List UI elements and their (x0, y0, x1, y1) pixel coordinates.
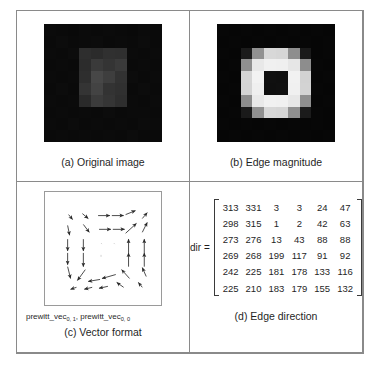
pixel-6-7 (300, 95, 312, 107)
vector-label-prefix-1: prewitt_vec (26, 312, 66, 321)
panel-b-caption: (b) Edge magnitude (230, 156, 322, 168)
matrix-cell-3-3: 117 (288, 248, 311, 264)
pixel-5-0 (217, 83, 229, 95)
pixel-9-8 (311, 130, 323, 142)
matrix-cell-0-1: 331 (242, 199, 265, 215)
pixel-8-3 (252, 118, 264, 130)
pixel-0-8 (138, 24, 150, 36)
matrix-cell-3-2: 199 (265, 248, 288, 264)
matrix-cell-2-1: 276 (242, 231, 265, 247)
pixel-0-3 (79, 24, 91, 36)
pixel-1-9 (323, 36, 335, 48)
pixel-5-2 (241, 83, 253, 95)
pixel-0-1 (229, 24, 241, 36)
pixel-9-4 (264, 130, 276, 142)
matrix-cell-4-4: 133 (311, 264, 334, 280)
pixel-8-9 (150, 118, 162, 130)
pixel-6-5 (276, 95, 288, 107)
edge-direction-matrix: 3133313324472983151242632732761343888826… (219, 199, 356, 296)
matrix-cell-4-3: 178 (288, 264, 311, 280)
pixel-9-7 (127, 130, 139, 142)
matrix-cell-0-2: 3 (265, 199, 288, 215)
pixel-7-7 (127, 107, 139, 119)
pixel-7-4 (264, 107, 276, 119)
pixel-2-9 (150, 48, 162, 60)
pixel-7-9 (150, 107, 162, 119)
pixel-7-2 (68, 107, 80, 119)
pixel-7-1 (229, 107, 241, 119)
pixel-5-8 (138, 83, 150, 95)
pixel-9-0 (44, 130, 56, 142)
pixel-4-7 (300, 71, 312, 83)
pixel-7-7 (300, 107, 312, 119)
pixel-2-6 (115, 48, 127, 60)
pixel-4-8 (138, 71, 150, 83)
pixel-9-3 (252, 130, 264, 142)
vector-label-sub-2: 0, 0 (121, 316, 130, 322)
pixel-2-0 (217, 48, 229, 60)
pixel-0-4 (91, 24, 103, 36)
pixel-5-2 (68, 83, 80, 95)
pixel-0-9 (150, 24, 162, 36)
pixel-0-8 (311, 24, 323, 36)
pixel-7-4 (91, 107, 103, 119)
pixel-4-8 (311, 71, 323, 83)
panel-grid: (a) Original image (b) Edge magnitude (16, 10, 364, 354)
pixel-3-1 (56, 59, 68, 71)
pixel-6-8 (138, 95, 150, 107)
pixel-6-3 (79, 95, 91, 107)
pixel-5-0 (44, 83, 56, 95)
pixel-9-3 (79, 130, 91, 142)
pixel-7-3 (252, 107, 264, 119)
matrix-cell-5-3: 179 (288, 280, 311, 296)
pixel-7-6 (288, 107, 300, 119)
pixel-9-1 (229, 130, 241, 142)
pixel-9-4 (91, 130, 103, 142)
pixel-5-1 (229, 83, 241, 95)
pixel-0-6 (115, 24, 127, 36)
panel-c-caption: (c) Vector format (64, 326, 142, 338)
pixel-6-2 (68, 95, 80, 107)
pixel-5-9 (323, 83, 335, 95)
matrix-cell-2-0: 273 (219, 231, 242, 247)
pixel-2-4 (264, 48, 276, 60)
pixel-3-6 (288, 59, 300, 71)
pixel-6-4 (264, 95, 276, 107)
pixel-6-9 (323, 95, 335, 107)
pixel-4-9 (323, 71, 335, 83)
pixel-3-3 (252, 59, 264, 71)
pixel-9-2 (241, 130, 253, 142)
pixel-6-0 (217, 95, 229, 107)
matrix-row: 298315124263 (219, 215, 356, 231)
pixel-8-2 (241, 118, 253, 130)
pixel-6-3 (252, 95, 264, 107)
matrix-row: 242225181178133116 (219, 264, 356, 280)
pixel-4-0 (44, 71, 56, 83)
pixel-3-4 (91, 59, 103, 71)
pixel-4-9 (150, 71, 162, 83)
pixel-2-8 (311, 48, 323, 60)
pixel-2-7 (127, 48, 139, 60)
pixel-9-2 (68, 130, 80, 142)
pixel-4-7 (127, 71, 139, 83)
pixel-4-3 (252, 71, 264, 83)
pixel-3-0 (217, 59, 229, 71)
pixel-0-3 (252, 24, 264, 36)
matrix-cell-3-4: 91 (311, 248, 334, 264)
matrix-row: 225210183179155132 (219, 280, 356, 296)
pixel-0-0 (217, 24, 229, 36)
pixel-1-6 (288, 36, 300, 48)
pixel-0-2 (241, 24, 253, 36)
vector-label-separator: , prewitt_vec (76, 312, 121, 321)
vector-format-label: prewitt_vec0, 1, prewitt_vec0, 0 (26, 312, 130, 322)
pixel-3-9 (323, 59, 335, 71)
pixel-6-2 (241, 95, 253, 107)
pixel-3-1 (229, 59, 241, 71)
pixel-6-7 (127, 95, 139, 107)
edge-magnitude-frame (217, 24, 335, 142)
vector-arrows (68, 211, 148, 290)
pixel-0-0 (44, 24, 56, 36)
pixel-8-8 (138, 118, 150, 130)
pixel-1-4 (91, 36, 103, 48)
pixel-2-0 (44, 48, 56, 60)
